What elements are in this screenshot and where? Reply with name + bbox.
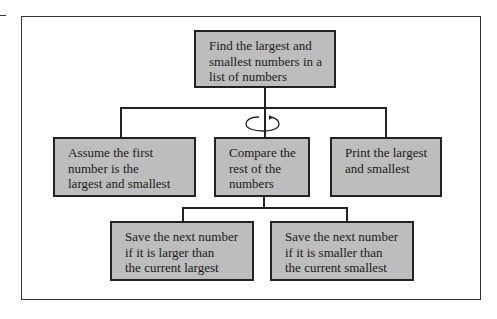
- save-larger-line-3: the current largest: [125, 260, 244, 276]
- loop-arrow-icon: [243, 115, 283, 135]
- print-line-2: and smallest: [345, 161, 432, 177]
- save-smaller-box: Save the next number if it is smaller th…: [270, 221, 414, 281]
- compare-line-2: rest of the: [229, 161, 300, 177]
- save-smaller-line-3: the current smallest: [285, 260, 404, 276]
- print-box: Print the largest and smallest: [330, 137, 442, 197]
- root-line-1: Find the largest and: [209, 38, 326, 54]
- connector-level3-bar: [182, 207, 347, 209]
- assume-line-3: largest and smallest: [68, 176, 186, 192]
- assume-box: Assume the first number is the largest a…: [53, 137, 196, 197]
- root-box: Find the largest and smallest numbers in…: [194, 30, 336, 88]
- margin-tick: [0, 15, 6, 16]
- root-line-3: list of numbers: [209, 69, 326, 85]
- compare-box: Compare the rest of the numbers: [214, 137, 310, 197]
- save-smaller-line-1: Save the next number: [285, 229, 404, 245]
- assume-line-2: number is the: [68, 161, 186, 177]
- compare-line-3: numbers: [229, 176, 300, 192]
- save-larger-line-1: Save the next number: [125, 229, 244, 245]
- save-smaller-line-2: if it is smaller than: [285, 245, 404, 261]
- compare-line-1: Compare the: [229, 145, 300, 161]
- save-larger-line-2: if it is larger than: [125, 245, 244, 261]
- print-line-1: Print the largest: [345, 145, 432, 161]
- connector-level2-bar: [120, 107, 386, 109]
- connector-left-drop: [120, 107, 122, 137]
- root-line-2: smallest numbers in a: [209, 54, 326, 70]
- assume-line-1: Assume the first: [68, 145, 186, 161]
- connector-right-drop: [385, 107, 387, 137]
- save-larger-box: Save the next number if it is larger tha…: [110, 221, 254, 281]
- connector-l3-right-drop: [346, 207, 348, 222]
- connector-l3-left-drop: [182, 207, 184, 222]
